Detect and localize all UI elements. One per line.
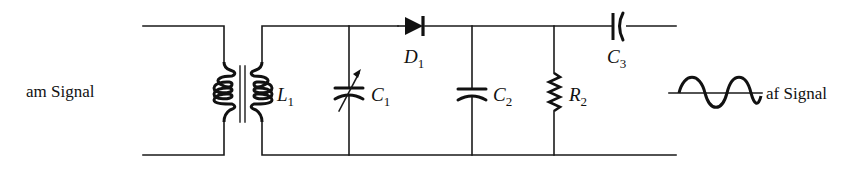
capacitor-c3-icon [612,13,626,40]
capacitor-c2-icon [458,26,486,155]
output-signal-label: af Signal [766,84,827,103]
primary-wires [143,26,224,155]
l1-label: L1 [276,84,294,109]
circuit-diagram: am Signal L1 C1 D1 [0,0,856,173]
input-signal-label: am Signal [26,82,95,101]
c1-label: C1 [371,84,390,109]
c2-label: C2 [493,84,512,109]
variable-capacitor-c1-icon [335,26,363,155]
resistor-r2-icon [549,26,560,155]
sine-wave-icon [669,77,762,107]
transformer-l1-icon [214,62,272,122]
c3-label: C3 [607,46,626,71]
r2-label: R2 [568,84,587,109]
d1-label: D1 [403,46,424,71]
diode-d1-icon [398,16,423,36]
